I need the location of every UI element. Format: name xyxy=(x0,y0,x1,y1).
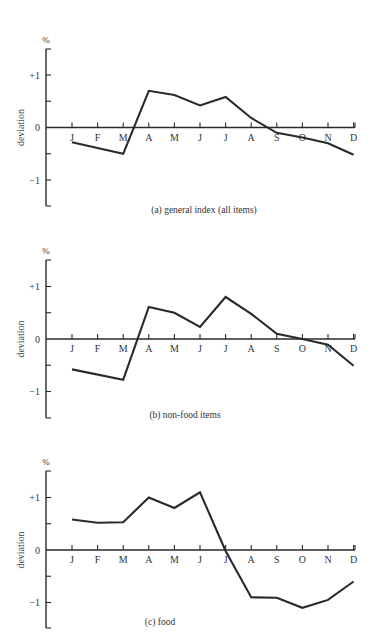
month-label: S xyxy=(274,343,280,354)
month-label: M xyxy=(170,132,179,143)
chart-panel-c: +10−1%deviationJFMAMJJASOND(c) food xyxy=(15,457,357,628)
month-label: J xyxy=(224,132,228,143)
y-axis-label: deviation xyxy=(15,109,26,146)
unit-label: % xyxy=(42,35,50,45)
y-tick-label-plus-one: +1 xyxy=(29,70,40,81)
y-tick-label-minus-one: −1 xyxy=(29,175,40,186)
month-label: N xyxy=(324,132,331,143)
y-axis-label: deviation xyxy=(15,531,26,568)
month-label: F xyxy=(95,554,101,565)
y-tick-label-plus-one: +1 xyxy=(29,281,40,292)
chart-panel-b: +10−1%deviationJFMAMJJASOND(b) non-food … xyxy=(15,246,357,421)
month-label: N xyxy=(324,554,331,565)
month-label: J xyxy=(70,343,74,354)
month-label: M xyxy=(119,343,128,354)
y-tick-label-zero: 0 xyxy=(35,334,40,345)
unit-label: % xyxy=(42,246,50,256)
month-label: D xyxy=(350,343,357,354)
y-tick-label-zero: 0 xyxy=(35,545,40,556)
month-label: J xyxy=(70,132,74,143)
chart-panel-a: +10−1%deviationJFMAMJJASOND(a) general i… xyxy=(15,35,357,216)
series-line xyxy=(72,91,354,155)
month-label: F xyxy=(95,343,101,354)
chart-caption: (a) general index (all items) xyxy=(151,205,257,216)
y-axis-label: deviation xyxy=(15,320,26,357)
month-label: D xyxy=(350,554,357,565)
month-label: J xyxy=(70,554,74,565)
y-tick-label-minus-one: −1 xyxy=(29,597,40,608)
month-label: S xyxy=(274,554,280,565)
y-tick-label-plus-one: +1 xyxy=(29,492,40,503)
month-label: M xyxy=(170,343,179,354)
month-label: M xyxy=(119,554,128,565)
chart-caption: (c) food xyxy=(145,617,176,628)
unit-label: % xyxy=(42,457,50,467)
month-label: M xyxy=(170,554,179,565)
chart-caption: (b) non-food items xyxy=(149,410,221,421)
month-label: O xyxy=(299,343,306,354)
month-label: A xyxy=(145,343,153,354)
y-tick-label-zero: 0 xyxy=(35,122,40,133)
month-label: J xyxy=(198,343,202,354)
month-label: O xyxy=(299,554,306,565)
month-label: M xyxy=(119,132,128,143)
month-label: A xyxy=(145,554,153,565)
month-label: J xyxy=(198,554,202,565)
month-label: J xyxy=(198,132,202,143)
month-label: J xyxy=(224,343,228,354)
month-label: F xyxy=(95,132,101,143)
y-tick-label-minus-one: −1 xyxy=(29,386,40,397)
seasonal-deviation-charts: +10−1%deviationJFMAMJJASOND(a) general i… xyxy=(0,0,374,637)
month-label: D xyxy=(350,132,357,143)
month-label: A xyxy=(248,554,256,565)
month-label: A xyxy=(248,132,256,143)
month-label: A xyxy=(248,343,256,354)
month-label: A xyxy=(145,132,153,143)
